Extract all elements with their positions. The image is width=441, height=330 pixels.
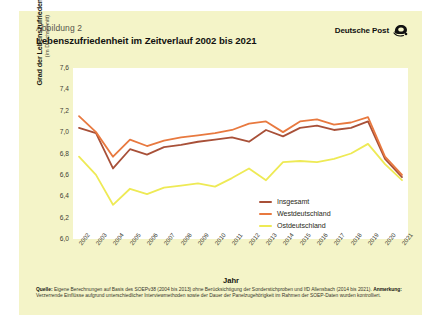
y-axis-tick: 6,4 <box>39 192 69 199</box>
y-axis-tick: 7,4 <box>39 85 69 92</box>
y-axis-tick: 7,2 <box>39 107 69 114</box>
y-axis-tick: 6,8 <box>39 150 69 157</box>
legend-swatch <box>259 225 272 227</box>
chart-area: Grad der Lebenszufriedenheit (im Durchsc… <box>73 68 408 239</box>
source-text: Eigene Berechnungen auf Basis des SOEPv3… <box>54 287 372 292</box>
series-line <box>79 116 402 175</box>
x-axis-title: Jahr <box>223 276 239 285</box>
chart-legend: InsgesamtWestdeutschlandOstdeutschland <box>259 196 331 232</box>
page-title: Lebenszufriedenheit im Zeitverlauf 2002 … <box>36 35 256 46</box>
legend-label: Ostdeutschland <box>277 222 326 230</box>
y-axis-tick: 6,2 <box>39 214 69 221</box>
brand-name: Deutsche Post <box>335 26 389 35</box>
posthorn-icon <box>393 24 408 37</box>
brand-logo: Deutsche Post <box>335 24 408 37</box>
legend-label: Westdeutschland <box>277 210 331 218</box>
source-label: Quelle: <box>36 287 53 292</box>
remark-text: Verzerrende Einflüsse aufgrund unterschi… <box>36 293 381 298</box>
legend-item[interactable]: Ostdeutschland <box>259 220 331 232</box>
series-line <box>79 121 402 177</box>
legend-swatch <box>259 201 272 203</box>
source-note: Quelle: Eigene Berechnungen auf Basis de… <box>36 287 408 300</box>
y-axis-title-line2: (im Durchschnitt) <box>44 0 51 96</box>
legend-item[interactable]: Insgesamt <box>259 196 331 208</box>
y-axis-tick: 6,0 <box>39 235 69 242</box>
series-lines <box>73 68 408 239</box>
legend-item[interactable]: Westdeutschland <box>259 208 331 220</box>
legend-swatch <box>259 213 272 215</box>
y-axis-tick: 7,0 <box>39 128 69 135</box>
remark-label: Anmerkung: <box>373 287 402 292</box>
y-axis-tick: 7,6 <box>39 64 69 71</box>
y-axis-title-line1: Grad der Lebenszufriedenheit <box>35 0 44 96</box>
y-axis-title: Grad der Lebenszufriedenheit (im Durchsc… <box>35 0 51 96</box>
y-axis-tick: 6,6 <box>39 171 69 178</box>
figure-card: Abbildung 2 Lebenszufriedenheit im Zeitv… <box>19 11 422 315</box>
legend-label: Insgesamt <box>277 198 309 206</box>
